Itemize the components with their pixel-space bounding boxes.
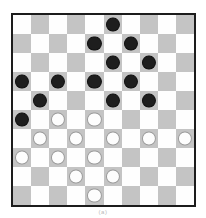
board-square-r2-c9[interactable] <box>158 34 176 53</box>
white-piece[interactable] <box>51 112 65 127</box>
board-square-r10-c6[interactable] <box>104 186 122 205</box>
board-square-r5-c9[interactable] <box>158 91 176 110</box>
board-square-r9-c5[interactable] <box>85 167 103 186</box>
board-square-r7-c5[interactable] <box>85 129 103 148</box>
board-square-r5-c8[interactable] <box>140 91 158 110</box>
white-piece[interactable] <box>87 112 101 127</box>
black-piece[interactable] <box>87 74 101 89</box>
black-piece[interactable] <box>105 17 119 32</box>
board-square-r10-c10[interactable] <box>176 186 194 205</box>
board-square-r7-c2[interactable] <box>31 129 49 148</box>
board-square-r7-c10[interactable] <box>176 129 194 148</box>
board-square-r1-c5[interactable] <box>85 15 103 34</box>
board-square-r4-c10[interactable] <box>176 72 194 91</box>
board-square-r5-c10[interactable] <box>176 91 194 110</box>
board-square-r1-c7[interactable] <box>122 15 140 34</box>
black-piece[interactable] <box>124 74 138 89</box>
white-piece[interactable] <box>51 150 65 165</box>
board-square-r6-c9[interactable] <box>158 110 176 129</box>
black-piece[interactable] <box>51 74 65 89</box>
board-square-r10-c1[interactable] <box>13 186 31 205</box>
board-square-r2-c7[interactable] <box>122 34 140 53</box>
board-square-r2-c2[interactable] <box>31 34 49 53</box>
board-square-r8-c8[interactable] <box>140 148 158 167</box>
board-square-r10-c3[interactable] <box>49 186 67 205</box>
black-piece[interactable] <box>105 93 119 108</box>
board-square-r2-c1[interactable] <box>13 34 31 53</box>
black-piece[interactable] <box>15 74 29 89</box>
board-square-r7-c3[interactable] <box>49 129 67 148</box>
board-square-r4-c3[interactable] <box>49 72 67 91</box>
board-square-r10-c9[interactable] <box>158 186 176 205</box>
board-square-r10-c8[interactable] <box>140 186 158 205</box>
draughts-board[interactable] <box>13 15 194 205</box>
board-square-r1-c3[interactable] <box>49 15 67 34</box>
board-square-r7-c9[interactable] <box>158 129 176 148</box>
white-piece[interactable] <box>33 131 47 146</box>
board-square-r10-c4[interactable] <box>67 186 85 205</box>
board-square-r6-c6[interactable] <box>104 110 122 129</box>
board-square-r9-c7[interactable] <box>122 167 140 186</box>
board-square-r3-c4[interactable] <box>67 53 85 72</box>
white-piece[interactable] <box>69 131 83 146</box>
white-piece[interactable] <box>105 169 119 184</box>
board-square-r3-c2[interactable] <box>31 53 49 72</box>
board-square-r3-c8[interactable] <box>140 53 158 72</box>
white-piece[interactable] <box>87 188 101 203</box>
white-piece[interactable] <box>69 169 83 184</box>
board-square-r5-c3[interactable] <box>49 91 67 110</box>
board-square-r7-c8[interactable] <box>140 129 158 148</box>
board-square-r2-c6[interactable] <box>104 34 122 53</box>
board-square-r1-c10[interactable] <box>176 15 194 34</box>
board-square-r10-c5[interactable] <box>85 186 103 205</box>
board-square-r1-c4[interactable] <box>67 15 85 34</box>
board-square-r8-c6[interactable] <box>104 148 122 167</box>
board-square-r9-c10[interactable] <box>176 167 194 186</box>
board-square-r5-c5[interactable] <box>85 91 103 110</box>
board-square-r2-c8[interactable] <box>140 34 158 53</box>
board-square-r7-c7[interactable] <box>122 129 140 148</box>
board-square-r6-c5[interactable] <box>85 110 103 129</box>
black-piece[interactable] <box>124 36 138 51</box>
board-square-r9-c2[interactable] <box>31 167 49 186</box>
white-piece[interactable] <box>15 150 29 165</box>
board-square-r4-c5[interactable] <box>85 72 103 91</box>
board-square-r10-c2[interactable] <box>31 186 49 205</box>
black-piece[interactable] <box>87 36 101 51</box>
board-square-r4-c1[interactable] <box>13 72 31 91</box>
board-square-r1-c6[interactable] <box>104 15 122 34</box>
board-square-r4-c7[interactable] <box>122 72 140 91</box>
board-square-r3-c7[interactable] <box>122 53 140 72</box>
board-square-r5-c4[interactable] <box>67 91 85 110</box>
board-square-r7-c1[interactable] <box>13 129 31 148</box>
board-square-r6-c1[interactable] <box>13 110 31 129</box>
board-square-r8-c2[interactable] <box>31 148 49 167</box>
board-square-r3-c6[interactable] <box>104 53 122 72</box>
board-square-r5-c7[interactable] <box>122 91 140 110</box>
board-square-r3-c10[interactable] <box>176 53 194 72</box>
board-square-r3-c9[interactable] <box>158 53 176 72</box>
board-square-r4-c8[interactable] <box>140 72 158 91</box>
board-square-r3-c3[interactable] <box>49 53 67 72</box>
board-square-r1-c2[interactable] <box>31 15 49 34</box>
board-square-r5-c6[interactable] <box>104 91 122 110</box>
white-piece[interactable] <box>87 150 101 165</box>
board-square-r8-c4[interactable] <box>67 148 85 167</box>
board-square-r8-c1[interactable] <box>13 148 31 167</box>
board-square-r9-c8[interactable] <box>140 167 158 186</box>
black-piece[interactable] <box>105 55 119 70</box>
board-square-r10-c7[interactable] <box>122 186 140 205</box>
board-square-r9-c6[interactable] <box>104 167 122 186</box>
board-square-r5-c1[interactable] <box>13 91 31 110</box>
board-square-r8-c7[interactable] <box>122 148 140 167</box>
board-square-r8-c10[interactable] <box>176 148 194 167</box>
board-square-r6-c2[interactable] <box>31 110 49 129</box>
board-square-r6-c3[interactable] <box>49 110 67 129</box>
board-square-r8-c5[interactable] <box>85 148 103 167</box>
board-square-r2-c5[interactable] <box>85 34 103 53</box>
board-square-r2-c10[interactable] <box>176 34 194 53</box>
white-piece[interactable] <box>105 131 119 146</box>
board-square-r9-c9[interactable] <box>158 167 176 186</box>
board-square-r2-c4[interactable] <box>67 34 85 53</box>
board-square-r1-c9[interactable] <box>158 15 176 34</box>
